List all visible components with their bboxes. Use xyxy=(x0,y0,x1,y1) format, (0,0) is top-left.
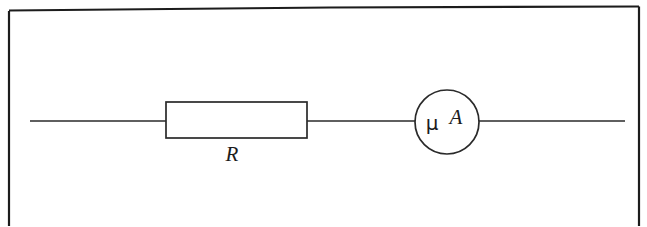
resistor-body xyxy=(166,102,307,138)
resistor-label: R xyxy=(225,142,239,166)
resistor-symbol xyxy=(166,102,307,138)
circuit-figure: R μ A xyxy=(0,0,647,226)
figure-border-top xyxy=(9,7,639,11)
figure-border xyxy=(9,7,639,227)
ammeter-body xyxy=(415,90,479,154)
circuit-diagram-canvas: R μ A xyxy=(0,0,647,226)
ammeter-label-ampere: A xyxy=(448,105,463,129)
ammeter-label-mu: μ xyxy=(426,111,439,135)
ammeter-symbol xyxy=(415,90,479,154)
